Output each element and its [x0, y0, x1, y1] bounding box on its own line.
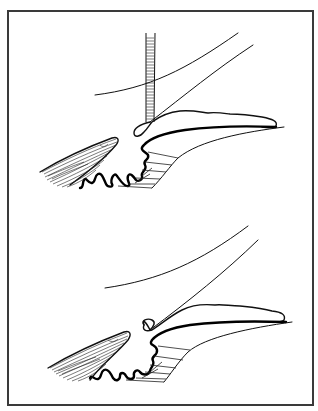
instrument-icon: [146, 33, 155, 122]
illustration: [0, 0, 318, 411]
panel-bottom: [48, 226, 292, 382]
panel-top: [40, 33, 284, 188]
iris-wedge: [40, 137, 118, 187]
iris-wedge: [48, 331, 130, 381]
